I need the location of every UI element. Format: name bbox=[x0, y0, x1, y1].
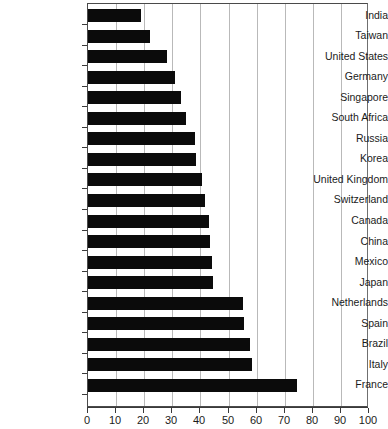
category-tick bbox=[82, 394, 87, 395]
category-label: United States bbox=[306, 50, 388, 62]
category-tick bbox=[82, 168, 87, 169]
bar[interactable] bbox=[88, 9, 141, 22]
category-tick bbox=[82, 291, 87, 292]
bar[interactable] bbox=[88, 338, 250, 351]
category-label: Canada bbox=[306, 214, 388, 226]
bar[interactable] bbox=[88, 297, 243, 310]
bar[interactable] bbox=[88, 71, 175, 84]
bar[interactable] bbox=[88, 358, 252, 371]
category-tick bbox=[82, 127, 87, 128]
x-axis-tick bbox=[115, 408, 116, 413]
x-axis-tick bbox=[340, 408, 341, 413]
category-tick bbox=[82, 106, 87, 107]
category-tick bbox=[82, 209, 87, 210]
category-label: France bbox=[306, 378, 388, 390]
bar[interactable] bbox=[88, 91, 181, 104]
category-tick bbox=[82, 312, 87, 313]
bar[interactable] bbox=[88, 194, 205, 207]
category-tick bbox=[82, 250, 87, 251]
category-tick bbox=[82, 45, 87, 46]
bar[interactable] bbox=[88, 317, 244, 330]
category-tick bbox=[82, 373, 87, 374]
bar[interactable] bbox=[88, 30, 150, 43]
bar[interactable] bbox=[88, 256, 212, 269]
bar[interactable] bbox=[88, 215, 209, 228]
category-label: South Africa bbox=[306, 111, 388, 123]
category-label: Netherlands bbox=[306, 296, 388, 308]
category-tick bbox=[82, 332, 87, 333]
bar[interactable] bbox=[88, 132, 195, 145]
bar[interactable] bbox=[88, 112, 186, 125]
category-label: United Kingdom bbox=[306, 173, 388, 185]
bar[interactable] bbox=[88, 173, 202, 186]
category-tick bbox=[82, 353, 87, 354]
category-label: Mexico bbox=[306, 255, 388, 267]
x-axis-tick bbox=[199, 408, 200, 413]
x-axis-tick bbox=[312, 408, 313, 413]
category-label: China bbox=[306, 235, 388, 247]
category-label: Germany bbox=[306, 70, 388, 82]
category-tick bbox=[82, 65, 87, 66]
x-axis-tick bbox=[171, 408, 172, 413]
category-label: Spain bbox=[306, 317, 388, 329]
category-label: Korea bbox=[306, 152, 388, 164]
category-label: Singapore bbox=[306, 91, 388, 103]
x-axis-tick bbox=[143, 408, 144, 413]
category-label: Russia bbox=[306, 132, 388, 144]
category-tick bbox=[82, 188, 87, 189]
bar[interactable] bbox=[88, 153, 196, 166]
category-label: Brazil bbox=[306, 337, 388, 349]
x-axis-tick bbox=[87, 408, 88, 413]
category-label: Taiwan bbox=[306, 29, 388, 41]
x-axis-tick-label: 100 bbox=[348, 414, 388, 427]
category-tick bbox=[82, 271, 87, 272]
category-tick bbox=[82, 147, 87, 148]
x-axis-tick bbox=[228, 408, 229, 413]
category-label: India bbox=[306, 9, 388, 21]
bar[interactable] bbox=[88, 379, 297, 392]
bar[interactable] bbox=[88, 235, 210, 248]
x-axis-tick bbox=[368, 408, 369, 413]
category-tick bbox=[82, 230, 87, 231]
category-tick bbox=[82, 86, 87, 87]
bar[interactable] bbox=[88, 276, 213, 289]
category-label: Switzerland bbox=[306, 193, 388, 205]
category-label: Italy bbox=[306, 358, 388, 370]
bar-chart: IndiaTaiwanUnited StatesGermanySingapore… bbox=[0, 0, 388, 429]
x-axis-tick bbox=[256, 408, 257, 413]
bar[interactable] bbox=[88, 50, 167, 63]
x-axis-tick bbox=[284, 408, 285, 413]
category-tick bbox=[82, 24, 87, 25]
category-label: Japan bbox=[306, 276, 388, 288]
